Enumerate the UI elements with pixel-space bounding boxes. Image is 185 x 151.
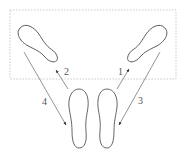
footprint-top-left	[14, 21, 62, 67]
arrow-step-3	[119, 52, 160, 125]
footprint-bottom-right	[98, 89, 117, 148]
footwork-diagram	[0, 0, 185, 151]
arrow-step-4	[24, 52, 66, 125]
step-label-1: 1	[118, 67, 123, 77]
footprint-top-right	[123, 21, 171, 67]
footprint-bottom-left	[69, 89, 88, 148]
step-label-3: 3	[138, 96, 143, 106]
forward-zone	[10, 10, 176, 79]
step-label-4: 4	[42, 97, 47, 107]
step-label-2: 2	[64, 67, 69, 77]
